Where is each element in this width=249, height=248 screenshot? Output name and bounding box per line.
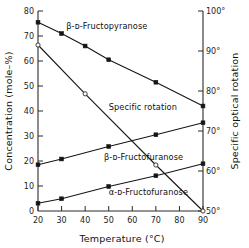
y-tick-label-left: 60 <box>24 57 34 66</box>
x-tick-label: 60 <box>127 216 137 225</box>
data-point <box>107 58 111 62</box>
data-point <box>36 20 40 24</box>
y-tick-label-right: 80° <box>206 87 220 96</box>
x-tick-label: 40 <box>80 216 90 225</box>
data-point <box>154 133 158 137</box>
series-annotation: α-ᴅ-Fructofuranose <box>109 187 188 197</box>
data-point <box>201 162 205 166</box>
y-tick-label-left: 0 <box>29 207 34 216</box>
chart-canvas: 01020304050607080 50°60°70°80°90°100° 20… <box>0 0 249 248</box>
y-tick-label-left: 50 <box>24 82 34 91</box>
x-axis-ticks: 2030405060708090 <box>33 206 208 225</box>
y-axis-left-title: Concentration (mole–%) <box>3 51 14 170</box>
data-point-open <box>83 92 87 96</box>
y-tick-label-left: 10 <box>24 182 34 191</box>
y-axis-right-title: Specific optical rotation <box>229 52 240 169</box>
series-annotation: β-ᴅ-Fructopyranose <box>66 21 147 31</box>
x-tick-label: 30 <box>56 216 66 225</box>
y-axis-left-ticks: 01020304050607080 <box>24 7 43 216</box>
data-point <box>201 121 205 125</box>
y-tick-label-right: 100° <box>206 7 225 16</box>
series--fructopyranose <box>36 20 205 108</box>
data-point <box>60 32 64 36</box>
data-point <box>154 174 158 178</box>
data-point-open <box>36 43 40 47</box>
y-tick-label-left: 30 <box>24 132 34 141</box>
series-line <box>38 45 203 211</box>
y-tick-label-right: 90° <box>206 47 220 56</box>
data-point-open <box>201 209 205 213</box>
y-tick-label-right: 70° <box>206 127 220 136</box>
data-point <box>60 157 64 161</box>
x-tick-label: 80 <box>174 216 184 225</box>
series--fructofuranose <box>36 162 205 205</box>
data-point <box>107 145 111 149</box>
x-tick-label: 20 <box>33 216 43 225</box>
data-point <box>83 44 87 48</box>
y-tick-label-right: 60° <box>206 167 220 176</box>
y-tick-label-left: 20 <box>24 157 34 166</box>
data-point <box>201 104 205 108</box>
y-tick-label-left: 80 <box>24 7 34 16</box>
data-point <box>60 197 64 201</box>
data-series-layer <box>36 20 205 213</box>
data-point <box>36 163 40 167</box>
y-tick-label-left: 70 <box>24 32 34 41</box>
x-tick-label: 50 <box>104 216 114 225</box>
x-tick-label: 90 <box>198 216 208 225</box>
series-annotation: β-ᴅ-Fructofuranose <box>104 152 183 162</box>
data-point <box>36 201 40 205</box>
x-axis-title: Temperature (°C) <box>78 233 164 244</box>
series-annotation: Specific rotation <box>109 102 177 112</box>
data-point-open <box>154 163 158 167</box>
x-tick-label: 70 <box>151 216 161 225</box>
y-tick-label-right: 50° <box>206 207 220 216</box>
y-tick-label-left: 40 <box>24 107 34 116</box>
y-axis-right-ticks: 50°60°70°80°90°100° <box>198 7 225 216</box>
chart-figure: 01020304050607080 50°60°70°80°90°100° 20… <box>0 0 249 248</box>
data-point <box>154 80 158 84</box>
